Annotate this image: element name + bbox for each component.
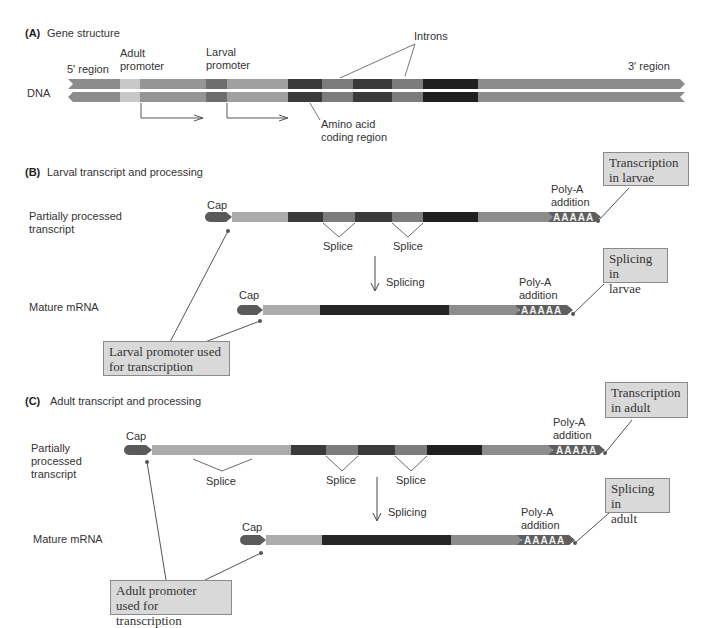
panel-a-tag: (A) [25, 27, 41, 39]
callout-splicing-larvae: Splicing in larvae [603, 248, 668, 283]
b-polya-tail-2: AAAAA [521, 305, 562, 316]
callout-transcription-adult: Transcription in adult [605, 382, 688, 418]
callout-line: in larvae [609, 170, 683, 185]
callout-line: Larval promoter used [109, 344, 224, 359]
b-cap1-label: Cap [207, 199, 227, 211]
dna-top-strand [68, 79, 685, 89]
callout-line: larvae [609, 281, 662, 296]
gene-diagram: (A) Gene structure 5′ region Adult promo… [0, 0, 712, 628]
callout-line: in adult [611, 400, 682, 415]
dna-bottom-strand [68, 92, 685, 102]
larval-promoter-label-2: promoter [206, 59, 250, 71]
c-row1-label-3: transcript [31, 468, 76, 480]
b-polya-label-2a: Poly-A [519, 276, 552, 288]
dna-label: DNA [27, 87, 51, 99]
c-row1-label-2: processed [31, 455, 82, 467]
callout-adult-promoter: Adult promoter used for transcription [110, 580, 232, 615]
panel-b-tag: (B) [25, 166, 41, 178]
panel-b-title: Larval transcript and processing [47, 166, 203, 178]
c-polya-label-1a: Poly-A [553, 416, 586, 428]
callout-transcription-larvae: Transcription in larvae [603, 152, 689, 186]
c-polya-label-2b: addition [521, 519, 560, 531]
b-polya-label-1a: Poly-A [551, 183, 584, 195]
larval-promoter-label-1: Larval [206, 46, 236, 58]
cap-icon [240, 535, 266, 545]
c-row1-label-1: Partially [31, 442, 71, 454]
callout-line: Adult promoter [116, 583, 226, 598]
callout-line: used for transcription [116, 598, 226, 628]
larval-partial-transcript [205, 212, 601, 222]
c-polya-label-2a: Poly-A [521, 506, 554, 518]
b-polya-label-1b: addition [551, 196, 590, 208]
c-splice-1: Splice [326, 474, 356, 486]
c-cap2-label: Cap [242, 521, 262, 533]
b-polya-label-2b: addition [519, 289, 558, 301]
callout-line: adult [611, 511, 664, 526]
panel-a-title: Gene structure [47, 27, 120, 39]
callout-line: Transcription [611, 385, 682, 400]
callout-larval-promoter: Larval promoter used for transcription [103, 341, 230, 376]
panel-c-tag: (C) [25, 395, 41, 407]
adult-promoter-label-2: promoter [120, 60, 164, 72]
b-row1-label-1: Partially processed [29, 210, 122, 222]
c-polya-tail-2: AAAAA [524, 535, 565, 546]
c-splicing-label: Splicing [388, 506, 427, 518]
five-prime-label: 5′ region [67, 63, 109, 75]
b-row2-label: Mature mRNA [29, 301, 99, 313]
adult-promoter-label-1: Adult [120, 47, 145, 59]
cap-icon [124, 445, 152, 455]
b-splicing-label: Splicing [386, 276, 425, 288]
adult-partial-transcript [124, 445, 605, 455]
callout-line: Transcription [609, 155, 683, 170]
c-splice-2: Splice [396, 474, 426, 486]
b-polya-tail-1: AAAAA [553, 212, 594, 223]
c-cap1-label: Cap [126, 430, 146, 442]
c-polya-label-1b: addition [553, 429, 592, 441]
coding-label-1: Amino acid [321, 118, 375, 130]
callout-line: Splicing in [611, 481, 664, 511]
coding-label-2: coding region [321, 131, 387, 143]
adult-promoter-arrow [141, 103, 203, 121]
larval-promoter-arrow [227, 103, 288, 121]
cap-icon [205, 212, 232, 222]
callout-line: for transcription [109, 359, 224, 374]
b-splice-2: Splice [393, 240, 423, 252]
three-prime-label: 3′ region [628, 60, 670, 72]
b-row1-label-2: transcript [29, 223, 74, 235]
callout-line: Splicing in [609, 251, 662, 281]
c-polya-tail-1: AAAAA [556, 445, 597, 456]
introns-label: Introns [414, 30, 448, 42]
b-splice-1: Splice [323, 240, 353, 252]
panel-c-title: Adult transcript and processing [50, 395, 201, 407]
cap-icon [237, 305, 263, 315]
callout-splicing-adult: Splicing in adult [605, 478, 670, 513]
c-splice-0: Splice [206, 475, 236, 487]
b-cap2-label: Cap [239, 289, 259, 301]
c-row2-label: Mature mRNA [33, 533, 103, 545]
